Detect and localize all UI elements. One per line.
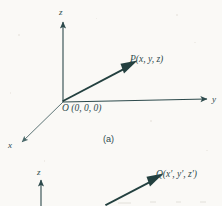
x-axis-panel-a	[22, 102, 63, 142]
point-p-label: P(x, y, z)	[130, 55, 163, 65]
point-q-label: Q(x', y', z')	[156, 170, 197, 180]
position-vector-op	[62, 61, 137, 103]
vector-diagram-figure: z y x O (0, 0, 0) P(x, y, z) (a) z Q(x',…	[0, 0, 222, 206]
origin-label: O (0, 0, 0)	[62, 104, 101, 114]
scan-speck	[150, 120, 152, 122]
scan-speck	[10, 92, 11, 94]
scan-speck	[18, 34, 20, 36]
scan-speck	[96, 18, 97, 19]
x-axis-label-panel-a: x	[8, 141, 12, 150]
position-vector-oq	[105, 174, 164, 207]
panel-a-caption: (a)	[103, 135, 114, 144]
scan-speck	[44, 160, 45, 162]
cropped-edge-artifacts	[118, 202, 206, 203]
scan-speck	[206, 150, 208, 151]
scan-speck	[176, 14, 178, 16]
z-axis-label-panel-b: z	[37, 168, 41, 177]
scan-speck	[194, 42, 196, 43]
z-axis-label-panel-a: z	[59, 8, 63, 17]
y-axis-panel-a	[63, 99, 207, 102]
y-axis-label-panel-a: y	[212, 95, 216, 104]
